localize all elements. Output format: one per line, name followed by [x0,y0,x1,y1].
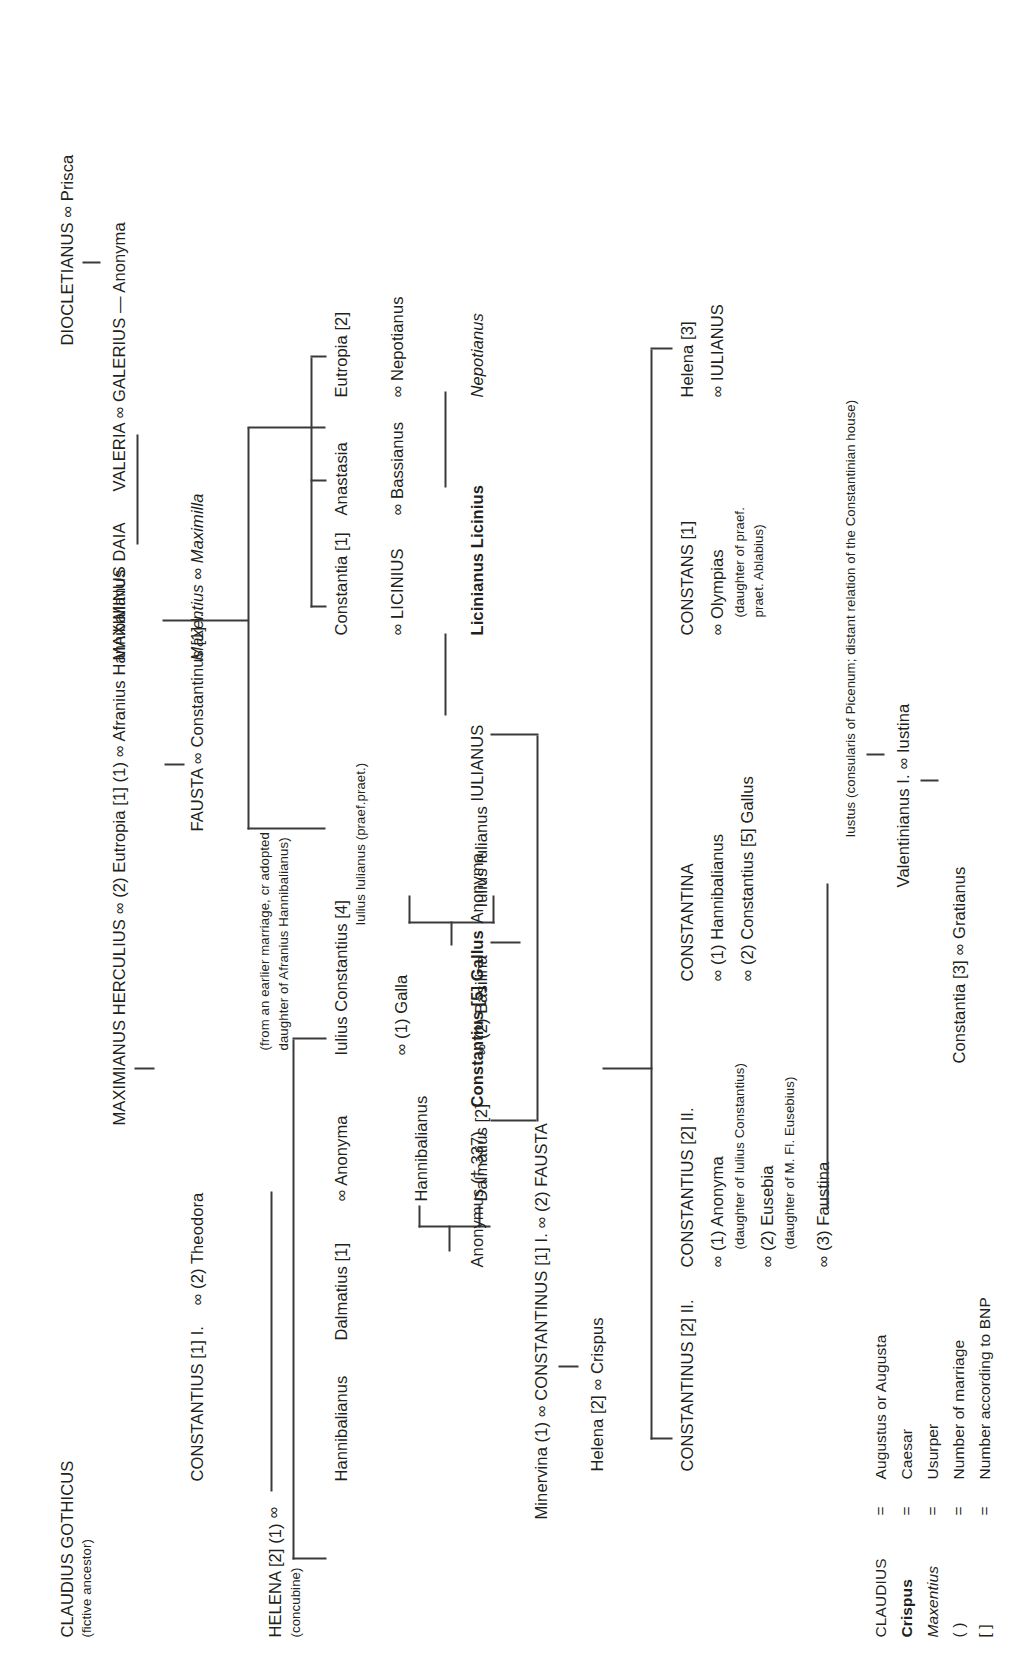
node-constans-1: CONSTANS [1] [676,520,696,635]
connector-nepotianus [444,391,446,487]
legend-eq-3: = [948,1506,967,1515]
legend-eq-0: = [870,1506,889,1515]
tick-hannibalianus-a [292,1557,326,1559]
node-constantina-marriage-2-label: ∞ (2) Constantius [5] Gallus [737,776,755,981]
node-constantina-marriage-2: ∞ (2) Constantius [5] Gallus [736,776,756,981]
connector-gallus-up [490,1119,536,1121]
node-constantinus-2: CONSTANTINUS [2] II. [676,1299,696,1471]
connector-iulianus-stem [450,921,452,945]
connector-faustina-branch [826,883,828,1207]
legend-symbol-2: Maxentius [922,1565,941,1637]
node-constantius-2: CONSTANTIUS [2] II. [676,1107,696,1267]
connector-anonyma-maximinus [136,434,138,544]
spine-constantius-children [292,1039,294,1559]
connector-crispus [558,1365,578,1367]
node-nepotianus-italic: Nepotianus [466,313,486,397]
connector-eutropia-branch-left [247,827,325,829]
node-hannibalianus-b: Hannibalianus [410,1095,430,1201]
node-olympias-note-1: (daughter of praef. [731,507,747,617]
connector-diocletianus-valeria [82,261,100,263]
legend-meaning-4: Number according to BNP [974,1297,993,1479]
node-constantius-2-marriage-1: ∞ (1) Anonyma [706,1156,726,1267]
legend-symbol-4: [ ] [974,1624,993,1637]
connector-anonyma-gallus-up [490,941,520,943]
node-maximianus-note-line2: daughter of Afranius Hannibalianus) [275,837,291,1050]
connector-iustus-down [866,753,884,755]
legend-meaning-1: Caesar [896,1428,915,1479]
connector-valentinianus-down [920,779,938,781]
connector-anonyma-stem [448,1225,450,1251]
tick-iulianus-bottom [492,895,494,923]
spine-maximianus-children [247,427,249,829]
node-iulius-constantius: Iulius Constantius [4] [330,900,350,1055]
connector-maxentius-down [162,619,248,621]
node-diocletianus: DIOCLETIANUS ∞ Prisca [56,154,76,345]
legend-symbol-3: ( ) [948,1622,967,1637]
spine-helena-constantius [270,1191,272,1491]
node-iulianus: IULIANUS [466,724,486,801]
node-nepotianus-spouse: ∞ Nepotianus [386,296,406,397]
node-olympias-note-2: praet. Ablabius) [750,524,766,617]
tick-iulius-constantius [292,1037,326,1039]
spine-constantinus-offspring [650,349,652,1439]
tick-helena-3 [650,347,672,349]
node-helena-3: Helena [3] [676,321,696,397]
legend-symbol-0: CLAUDIUS [870,1558,889,1637]
node-constantia-3-gratianus-label: Constantia [3] ∞ Gratianus [949,866,967,1063]
legend-meaning-0: Augustus or Augusta [870,1334,889,1479]
node-constantina-marriage-1: ∞ (1) Hannibalianus [706,833,726,981]
node-anastasia: Anastasia [330,442,350,515]
node-constantius-5-gallus: Constantius [5] Gallus [466,930,486,1107]
node-galla: ∞ (1) Galla [390,974,410,1055]
node-licinius-spouse: ∞ LICINIUS [386,548,406,635]
legend-meaning-3: Number of marriage [948,1339,967,1479]
node-anonymus-337: Anonymus († 337) [466,1131,486,1267]
node-anonyma-theodora: ∞ Anonyma [330,1115,350,1201]
node-constantius-2-marriage-2-note: (daughter of M. Fl. Eusebius) [781,1076,797,1249]
node-maxentius-maximilla: Maxentius ∞ Maximilla [186,493,206,660]
node-valentinianus-iustina: Valentinianus I. ∞ Iustina [892,703,912,887]
node-constantia-1: Constantia [1] [330,532,350,635]
legend-eq-2: = [922,1506,941,1515]
node-licinianus-licinius: Licinianus Licinius [466,485,486,635]
tick-eutropia2 [310,355,326,357]
node-valeria-galerius-anonyma: VALERIA ∞ GALERIUS — Anonyma [108,222,128,491]
connector-iulianus-up [490,733,538,735]
connector-fausta-up [164,763,184,765]
tick-iulianus-top [408,895,410,923]
node-constantius-1: CONSTANTIUS [1] I. [186,1325,206,1481]
node-maximianus-note-line1: (from an earlier marriage, cr adopted [256,832,272,1050]
legend-symbol-1: Crispus [896,1579,915,1637]
node-helena-marriage-symbol: ∞ [262,1506,282,1518]
node-claudius-gothicus: CLAUDIUS GOTHICUS [56,1460,76,1637]
legend-meaning-2: Usurper [922,1423,941,1479]
legend-eq-1: = [896,1506,915,1515]
node-hannibalianus-a: Hannibalianus [330,1375,350,1481]
node-constantius-2-marriage-2: ∞ (2) Eusebia [756,1165,776,1267]
node-constantius-2-marriage-1-note: (daughter of Iulius Constantius) [731,1063,747,1249]
node-olympias: ∞ Olympias [706,549,726,635]
tick-hannibalianus-b [418,1205,420,1227]
node-helena2-crispus: Helena [2] ∞ Crispus [586,1317,606,1471]
node-constantius-1-theodora: ∞ (2) Theodora [186,1192,206,1305]
legend-eq-4: = [974,1506,993,1515]
tick-constantia [310,605,326,607]
node-eutropia-2: Eutropia [2] [330,311,350,397]
node-dalmatius-1: Dalmatius [1] [330,1242,350,1340]
node-constantius-5-gallus-label: Constantius [5] Gallus [467,930,485,1107]
family-tree-figure: CLAUDIUS GOTHICUS (fictive ancestor) DIO… [0,0,1033,1667]
node-helena-3-spouse: ∞ IULIANUS [706,304,726,397]
node-constantia-3-gratianus: Constantia [3] ∞ Gratianus [948,866,968,1063]
connector-constantinus-spine-up [602,1067,652,1069]
node-maximianus-herculius: MAXIMIANUS HERCULIUS ∞ (2) Eutropia [1] … [108,569,128,1125]
node-anonyma-gallus: Anonyma [466,853,486,923]
tick-constantinus-2 [650,1437,672,1439]
node-constantina: CONSTANTINA [676,863,696,981]
connector-licinianus [444,633,446,715]
node-helena-concubine-note: (concubine) [287,1567,303,1637]
node-claudius-gothicus-note: (fictive ancestor) [78,1538,94,1637]
node-constantius-2-marriage-3: ∞ (3) Faustina [812,1161,832,1267]
tick-anastasia [310,479,326,481]
node-iulius-iulianus-praef: Iulius Iulianus (praef.praet.) [352,762,368,925]
node-helena-concubine: HELENA [2] (1) [264,1523,284,1637]
